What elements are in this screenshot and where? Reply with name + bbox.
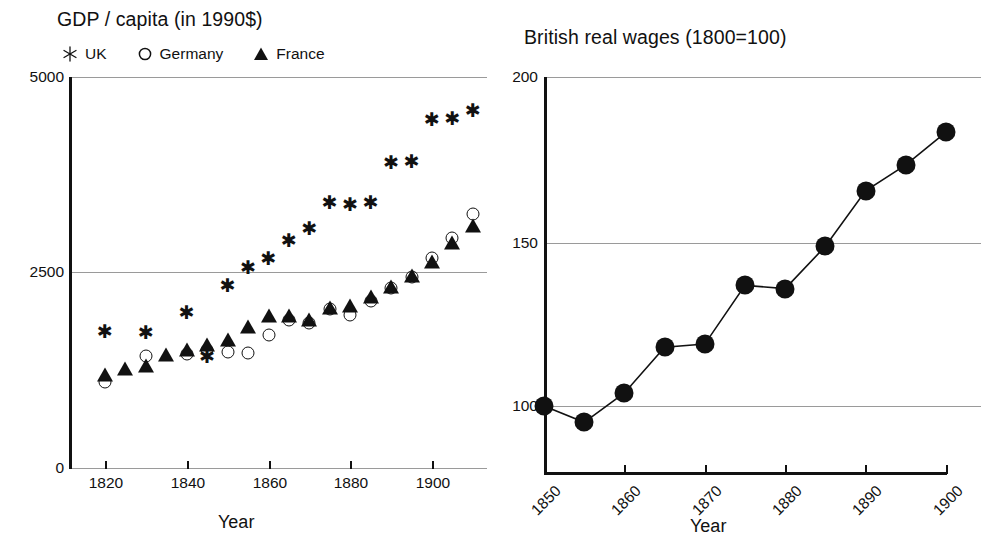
- xtick-1900: [432, 461, 434, 469]
- uk-asterisk-marker: ✱: [444, 108, 460, 127]
- germany-circle-marker: [466, 207, 479, 220]
- france-triangle-marker: [404, 269, 420, 283]
- figure-two-panel-charts: GDP / capita (in 1990$) UK: [0, 0, 989, 558]
- xtick-1880: [350, 461, 352, 469]
- xtick-label-1900: 1900: [403, 474, 463, 492]
- xtick-label-1820: 1820: [76, 474, 136, 492]
- ytick-label-2500: 2500: [8, 263, 64, 281]
- right-plot-area: 200 150 100 1850 1860 1870 1880 1890 190…: [494, 0, 989, 558]
- france-triangle-marker: [138, 359, 154, 373]
- chart-panel-british-real-wages: British real wages (1800=100) 200 150 10…: [494, 0, 989, 558]
- france-triangle-marker: [465, 219, 481, 233]
- left-y-axis-spine: [69, 77, 72, 469]
- uk-asterisk-marker: ✱: [261, 249, 277, 268]
- uk-asterisk-marker: ✱: [240, 258, 256, 277]
- france-triangle-marker: [301, 313, 317, 327]
- france-triangle-marker: [97, 367, 113, 381]
- germany-circle-marker: [242, 347, 255, 360]
- germany-circle-marker: [426, 252, 439, 265]
- uk-asterisk-marker: ✱: [465, 100, 481, 119]
- left-xaxis-name: Year: [218, 512, 254, 533]
- france-triangle-marker: [444, 235, 460, 249]
- xtick-1860: [269, 461, 271, 469]
- germany-circle-marker: [344, 308, 357, 321]
- uk-asterisk-marker: ✱: [363, 193, 379, 212]
- xtick-1820: [105, 461, 107, 469]
- ytick-label-0: 0: [8, 459, 64, 477]
- germany-circle-marker: [180, 347, 193, 360]
- xtick-label-1840: 1840: [158, 474, 218, 492]
- uk-asterisk-marker: ✱: [342, 194, 358, 213]
- left-plot-area: 5000 2500 0 1820 1840 1860 1880 1900 Yea…: [0, 0, 495, 558]
- gridline-2500: [70, 272, 487, 273]
- uk-asterisk-marker: ✱: [383, 153, 399, 172]
- xtick-1840: [187, 461, 189, 469]
- france-triangle-marker: [261, 309, 277, 323]
- ytick-label-5000: 5000: [8, 68, 64, 86]
- uk-asterisk-marker: ✱: [220, 276, 236, 295]
- chart-panel-gdp-per-capita: GDP / capita (in 1990$) UK: [0, 0, 495, 558]
- france-triangle-marker: [158, 348, 174, 362]
- xtick-label-1880: 1880: [321, 474, 381, 492]
- france-triangle-marker: [383, 280, 399, 294]
- germany-circle-marker: [303, 317, 316, 330]
- gridline-5000: [70, 77, 487, 78]
- uk-asterisk-marker: ✱: [199, 347, 215, 366]
- france-triangle-marker: [342, 298, 358, 312]
- uk-asterisk-marker: ✱: [424, 110, 440, 129]
- germany-circle-marker: [385, 282, 398, 295]
- france-triangle-marker: [117, 361, 133, 375]
- france-triangle-marker: [281, 309, 297, 323]
- right-series-line: [494, 0, 989, 558]
- france-triangle-marker: [179, 342, 195, 356]
- germany-circle-marker: [262, 329, 275, 342]
- france-triangle-marker: [220, 333, 236, 347]
- france-triangle-marker: [424, 255, 440, 269]
- uk-asterisk-marker: ✱: [138, 322, 154, 341]
- uk-asterisk-marker: ✱: [322, 193, 338, 212]
- uk-asterisk-marker: ✱: [97, 322, 113, 341]
- germany-circle-marker: [364, 294, 377, 307]
- uk-asterisk-marker: ✱: [281, 231, 297, 250]
- germany-circle-marker: [446, 232, 459, 245]
- uk-asterisk-marker: ✱: [301, 218, 317, 237]
- germany-circle-marker: [139, 350, 152, 363]
- uk-asterisk-marker: ✱: [404, 151, 420, 170]
- germany-circle-marker: [323, 302, 336, 315]
- germany-circle-marker: [221, 345, 234, 358]
- xtick-label-1860: 1860: [240, 474, 300, 492]
- france-triangle-marker: [240, 320, 256, 334]
- france-triangle-marker: [363, 289, 379, 303]
- germany-circle-marker: [282, 314, 295, 327]
- germany-circle-marker: [201, 343, 214, 356]
- gridline-0: [70, 468, 487, 469]
- france-triangle-marker: [322, 300, 338, 314]
- uk-asterisk-marker: ✱: [179, 302, 195, 321]
- germany-circle-marker: [99, 376, 112, 389]
- france-triangle-marker: [199, 338, 215, 352]
